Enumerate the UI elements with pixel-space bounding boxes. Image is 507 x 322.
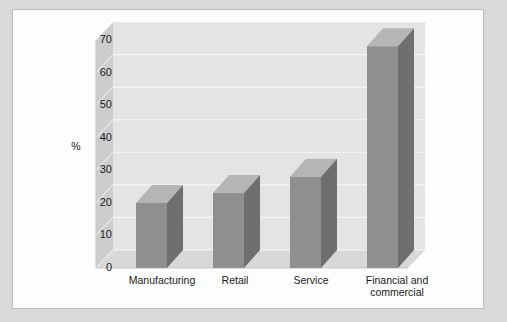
x-tick-label-retail: Retail — [199, 274, 271, 286]
y-tick-label-10: 10 — [86, 229, 112, 240]
y-tick-label-50: 50 — [86, 99, 112, 110]
y-tick-label-70: 70 — [86, 34, 112, 45]
bar-front-face — [213, 193, 244, 268]
bar-front-face — [290, 177, 321, 268]
bar-manufacturing — [136, 185, 183, 268]
bar-service — [290, 159, 337, 268]
y-tick-label-40: 40 — [86, 132, 112, 143]
x-tick-label-financial-and-commercial: Financial and commercial — [345, 274, 449, 298]
y-tick-label-30: 30 — [86, 164, 112, 175]
bar-retail — [213, 175, 260, 268]
x-tick-label-manufacturing: Manufacturing — [112, 274, 212, 286]
bar-side-face — [321, 159, 337, 268]
y-axis-title: % — [68, 140, 84, 152]
bar-front-face — [367, 46, 398, 268]
bar-front-face — [136, 203, 167, 268]
y-tick-label-20: 20 — [86, 197, 112, 208]
x-tick-label-service: Service — [274, 274, 348, 286]
bar-financial-and-commercial — [367, 28, 414, 268]
y-tick-label-60: 60 — [86, 67, 112, 78]
y-tick-label-0: 0 — [86, 262, 112, 273]
bar-side-face — [398, 28, 414, 268]
chart-figure: 70 60 50 40 30 20 10 0 % Manufacturing R… — [0, 0, 507, 322]
